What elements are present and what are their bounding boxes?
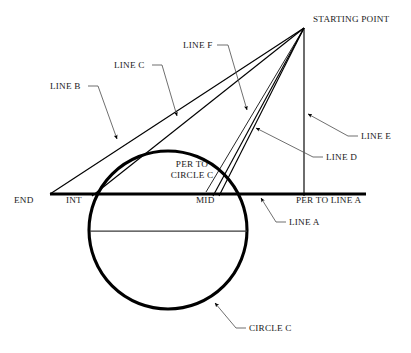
label-mid: MID: [196, 195, 215, 205]
label-per-to-circle-c-line2: CIRCLE C: [171, 170, 214, 180]
leader-line-f: [217, 45, 247, 110]
label-line-c: LINE C: [114, 60, 145, 70]
label-int: INT: [66, 195, 82, 205]
label-starting-point: STARTING POINT: [313, 14, 389, 24]
label-line-b: LINE B: [50, 81, 81, 91]
line-d-segment: [213, 28, 304, 196]
leader-line-c: [152, 65, 177, 116]
label-line-f: LINE F: [183, 40, 213, 50]
leader-line-a: [261, 198, 286, 222]
label-end: END: [14, 195, 34, 205]
label-line-a: LINE A: [289, 217, 320, 227]
leader-line-b: [88, 86, 117, 139]
label-line-e: LINE E: [361, 131, 391, 141]
leader-line-e: [308, 114, 358, 136]
label-line-d: LINE D: [326, 152, 357, 162]
diagram-labels: STARTING POINT LINE B LINE C LINE F LINE…: [14, 14, 391, 333]
leader-line-d: [256, 128, 323, 157]
line-f-segment: [219, 28, 304, 196]
label-per-to-line-a: PER TO LINE A: [296, 195, 361, 205]
diagram-canvas: STARTING POINT LINE B LINE C LINE F LINE…: [0, 0, 411, 353]
leader-circle-c: [215, 303, 246, 328]
per-to-circle-c-segment: [206, 28, 304, 192]
geometry-diagram: STARTING POINT LINE B LINE C LINE F LINE…: [0, 0, 411, 353]
label-per-to-circle-c-line1: PER TO: [176, 159, 208, 169]
label-circle-c: CIRCLE C: [249, 323, 292, 333]
circle-c-shape: [89, 151, 247, 309]
